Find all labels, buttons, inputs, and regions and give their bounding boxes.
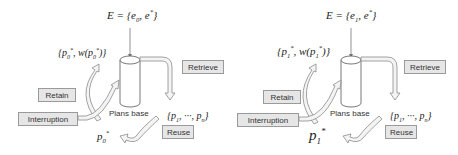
interruption-box: Interruption <box>237 113 299 127</box>
candidate-plan-set: {p1, ···, pn} <box>390 110 432 121</box>
panel-left: E = {e0, e*} {p0*, w(p0*)} Retrieve Reta… <box>0 0 229 155</box>
reuse-box: Reuse <box>385 125 417 139</box>
plans-base-cylinder <box>341 56 361 107</box>
selected-plan: p0* <box>97 130 109 142</box>
retain-box: Retain <box>263 90 301 104</box>
reuse-box: Reuse <box>162 125 194 139</box>
retrieve-box: Retrieve <box>182 60 224 74</box>
plans-base-label: Plans base <box>109 109 149 118</box>
interruption-box: Interruption <box>18 112 78 126</box>
flow-arrows <box>229 0 458 155</box>
plans-base-label: Plans base <box>330 109 370 118</box>
panel-right: E = {e1, e*} {p1*, w(p1*)} Retrieve Reta… <box>229 0 458 155</box>
selected-plan: p1* <box>309 127 326 144</box>
retained-plan-set: {p0*, w(p0*)} <box>58 47 106 58</box>
candidate-plan-set: {p1, ···, pn} <box>167 110 209 121</box>
retrieve-box: Retrieve <box>404 60 446 74</box>
environment-set: E = {e0, e*} <box>107 9 157 21</box>
retained-plan-set: {p1*, w(p1*)} <box>277 45 330 57</box>
plans-base-cylinder <box>120 56 140 107</box>
flow-arrows <box>0 0 229 155</box>
retain-box: Retain <box>38 88 76 102</box>
environment-set: E = {e1, e*} <box>326 9 376 21</box>
